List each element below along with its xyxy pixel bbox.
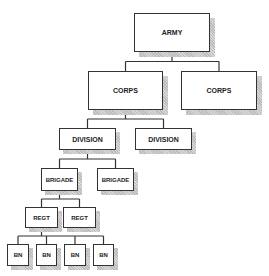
node-army: ARMY: [134, 13, 210, 52]
node-bn3: BN: [64, 244, 86, 266]
node-bn1: BN: [7, 244, 29, 266]
node-bn4: BN: [93, 244, 114, 266]
node-regt2: REGT: [63, 207, 96, 228]
node-brig1: BRIGADE: [41, 168, 78, 191]
node-brig2: BRIGADE: [97, 168, 134, 191]
node-div2: DIVISION: [135, 128, 192, 150]
node-regt1: REGT: [25, 207, 58, 228]
node-corps1: CORPS: [88, 71, 163, 110]
node-bn2: BN: [36, 244, 57, 266]
node-div1: DIVISION: [59, 128, 116, 150]
node-corps2: CORPS: [181, 71, 257, 110]
